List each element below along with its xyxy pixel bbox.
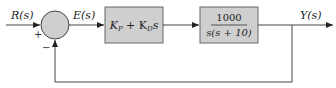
summing-junction: [41, 11, 69, 39]
plus-sign: +: [34, 29, 42, 40]
minus-sign: −: [42, 42, 50, 53]
plant-denominator: s(s + 10): [206, 27, 252, 38]
input-label: R(s): [10, 9, 34, 22]
plant-numerator: 1000: [216, 12, 241, 23]
block-diagram: R(s) + − E(s) KP + KDs 1000 s(s + 10) Y(…: [0, 0, 336, 88]
output-label: Y(s): [300, 9, 322, 22]
error-label: E(s): [72, 9, 95, 22]
